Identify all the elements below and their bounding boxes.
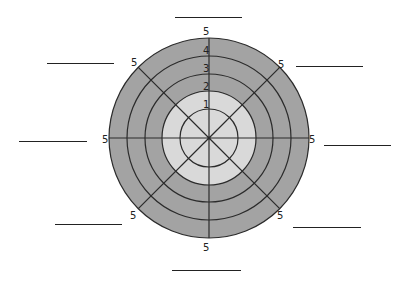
blank-line-top-right[interactable]: [296, 66, 363, 67]
blank-line-right[interactable]: [324, 145, 391, 146]
blank-line-top-left[interactable]: [47, 63, 114, 64]
blank-line-bottom-left[interactable]: [55, 224, 122, 225]
scale-label-3: 3: [203, 63, 209, 74]
blank-line-top[interactable]: [175, 17, 242, 18]
spoke-label-left: 5: [102, 134, 108, 145]
scale-label-4: 4: [203, 45, 209, 56]
spoke-label-bottom-left: 5: [130, 210, 136, 221]
blank-line-bottom-right[interactable]: [293, 227, 361, 228]
spoke-label-bottom-right: 5: [277, 210, 283, 221]
spoke-label-top-right: 5: [278, 59, 284, 70]
center-dot: [208, 137, 211, 140]
blank-line-left[interactable]: [19, 141, 87, 142]
spoke-label-top: 5: [203, 26, 209, 37]
spoke-label-top-left: 5: [131, 57, 137, 68]
blank-line-bottom[interactable]: [172, 270, 241, 271]
spoke-label-right: 5: [309, 134, 315, 145]
spoke-label-bottom: 5: [203, 242, 209, 253]
scale-label-2: 2: [203, 81, 209, 92]
scale-label-1: 1: [203, 99, 209, 110]
